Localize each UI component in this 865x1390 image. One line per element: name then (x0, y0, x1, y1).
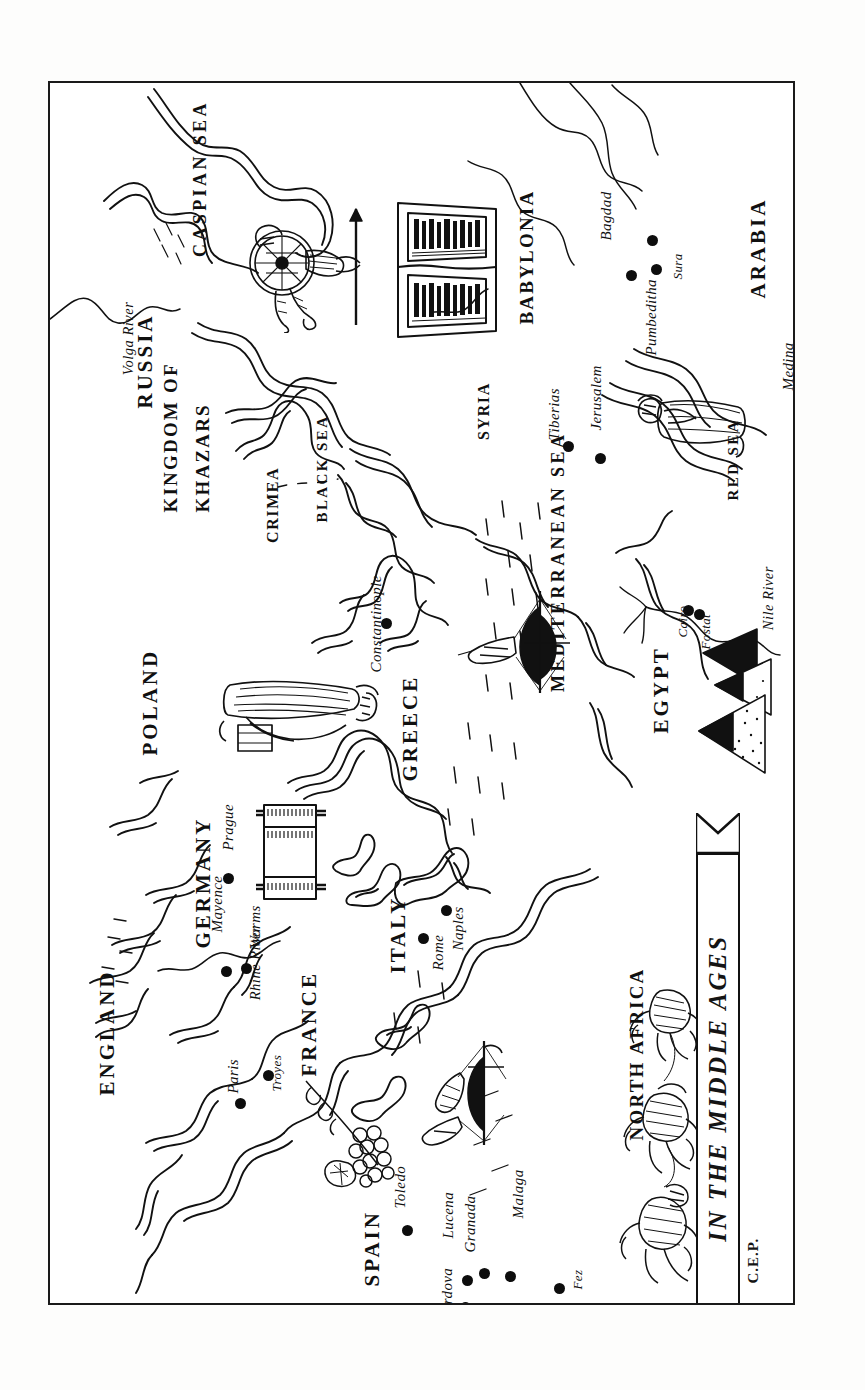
city-dot-worms (241, 963, 252, 974)
city-dot-toledo (402, 1225, 413, 1236)
city-dot-granada (479, 1268, 490, 1279)
city-dot-sura (651, 264, 662, 275)
artist-signature: C.E.P. (745, 1238, 762, 1284)
map-frame: IN THE MIDDLE AGES C.E.P. RUSSIAKINGDOM … (48, 81, 795, 1305)
city-dot-troyes (263, 1070, 274, 1081)
city-dot-bagdad (647, 235, 658, 246)
city-dot-lucena (462, 1275, 473, 1286)
page-background: IN THE MIDDLE AGES C.E.P. RUSSIAKINGDOM … (0, 0, 865, 1390)
city-dot-jerusalem (595, 453, 606, 464)
coastline-linework (50, 83, 793, 1303)
city-dot-naples (418, 933, 429, 944)
city-dot-pumbeditha (626, 270, 637, 281)
city-dot-tiberias (563, 441, 574, 452)
city-dot-cairo (683, 605, 694, 616)
map-canvas (50, 83, 793, 1303)
city-dot-mayence (221, 966, 232, 977)
city-dot-fez (554, 1283, 565, 1294)
city-dot-malaga (505, 1271, 516, 1282)
city-dot-constantinople (381, 618, 392, 629)
city-dot-fostat (694, 609, 705, 620)
city-dot-prague (223, 873, 234, 884)
city-dot-paris (235, 1098, 246, 1109)
city-dot-rome (441, 905, 452, 916)
